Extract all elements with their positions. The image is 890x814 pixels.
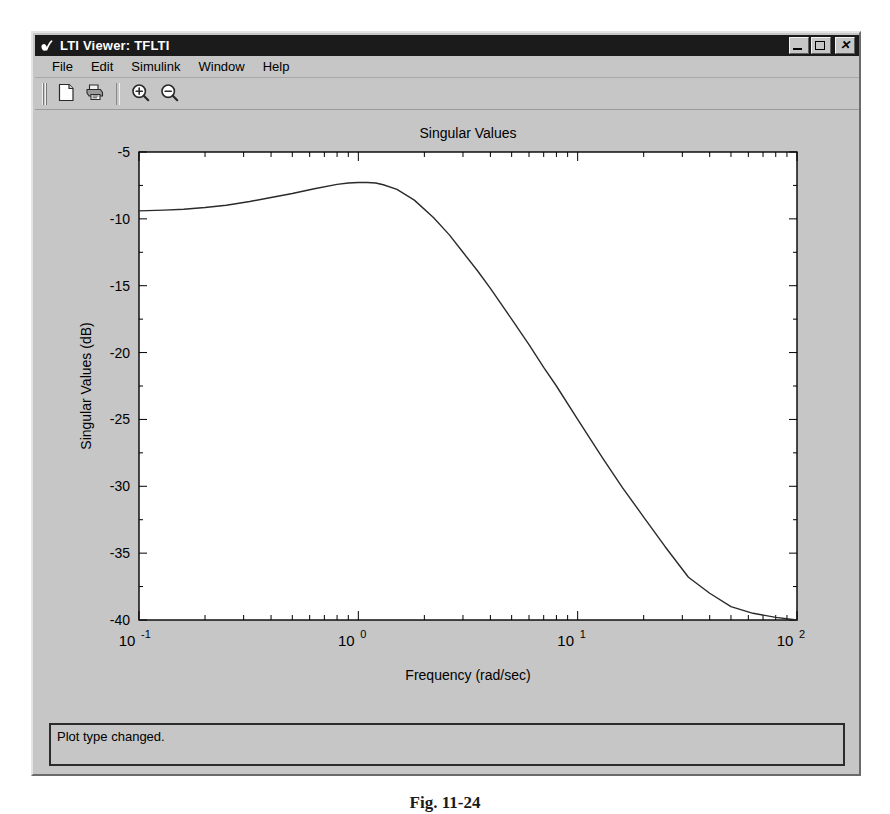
zoom-in-button[interactable]	[127, 82, 153, 107]
window-title: LTI Viewer: TFLTI	[60, 38, 170, 53]
svg-text:10: 10	[119, 632, 136, 649]
title-bar[interactable]: LTI Viewer: TFLTI ✕	[35, 35, 859, 56]
zoom-out-icon	[160, 83, 179, 106]
menu-item-window[interactable]: Window	[189, 58, 253, 75]
x-tick-label: 10-1	[119, 628, 151, 649]
x-tick-label: 101	[557, 628, 585, 649]
y-tick-label: -30	[110, 478, 130, 494]
zoom-in-icon	[131, 83, 150, 106]
close-button[interactable]: ✕	[835, 37, 855, 54]
menu-item-help[interactable]: Help	[254, 58, 299, 75]
chart-title: Singular Values	[419, 125, 516, 141]
print-button[interactable]	[82, 82, 108, 107]
matlab-membrane-icon	[39, 38, 55, 54]
menu-item-edit[interactable]: Edit	[82, 58, 122, 75]
y-tick-label: -25	[110, 411, 130, 427]
svg-text:10: 10	[557, 632, 574, 649]
close-icon: ✕	[836, 38, 854, 53]
menu-item-file[interactable]: File	[43, 58, 82, 75]
y-tick-label: -20	[110, 345, 130, 361]
maximize-button[interactable]	[811, 37, 831, 54]
toolbar-drag-handle[interactable]	[41, 83, 47, 105]
status-bar: Plot type changed.	[49, 723, 845, 766]
y-tick-label: -5	[118, 144, 131, 160]
singular-values-chart[interactable]: Singular Values10-1100101102-5-10-15-20-…	[35, 110, 859, 720]
svg-text:10: 10	[338, 632, 355, 649]
y-axis-label: Singular Values (dB)	[78, 322, 94, 449]
x-tick-label: 102	[777, 628, 805, 649]
figure-caption: Fig. 11-24	[0, 793, 890, 814]
new-document-button[interactable]	[53, 82, 79, 107]
new-document-icon	[58, 83, 75, 106]
print-icon	[85, 83, 105, 105]
y-tick-label: -40	[110, 612, 130, 628]
svg-text:-1: -1	[141, 628, 151, 640]
minimize-button[interactable]	[789, 37, 809, 54]
y-tick-label: -35	[110, 545, 130, 561]
x-axis-label: Frequency (rad/sec)	[405, 667, 530, 683]
svg-text:2: 2	[799, 628, 805, 640]
y-tick-label: -10	[110, 211, 130, 227]
zoom-out-button[interactable]	[156, 82, 182, 107]
plot-panel[interactable]: Singular Values10-1100101102-5-10-15-20-…	[35, 110, 859, 720]
status-message: Plot type changed.	[57, 729, 165, 744]
tool-bar	[35, 79, 859, 110]
svg-text:0: 0	[360, 628, 366, 640]
toolbar-separator	[116, 83, 120, 105]
menu-item-simulink[interactable]: Simulink	[122, 58, 189, 75]
menu-bar: File Edit Simulink Window Help	[35, 56, 859, 78]
x-tick-label: 100	[338, 628, 366, 649]
lti-viewer-window: LTI Viewer: TFLTI ✕ File Edit Simulink W…	[31, 31, 861, 776]
y-tick-label: -15	[110, 278, 130, 294]
page-root: LTI Viewer: TFLTI ✕ File Edit Simulink W…	[0, 0, 890, 814]
window-controls: ✕	[789, 37, 855, 54]
svg-text:1: 1	[580, 628, 586, 640]
svg-text:10: 10	[777, 632, 794, 649]
